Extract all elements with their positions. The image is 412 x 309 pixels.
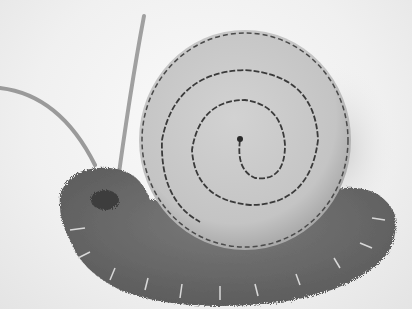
shell: [139, 30, 351, 250]
spiral-center-knot: [237, 136, 243, 142]
snail-photo: [0, 0, 412, 309]
right-antenna: [116, 16, 144, 195]
left-antenna: [0, 88, 95, 165]
snail-illustration: [0, 0, 412, 309]
